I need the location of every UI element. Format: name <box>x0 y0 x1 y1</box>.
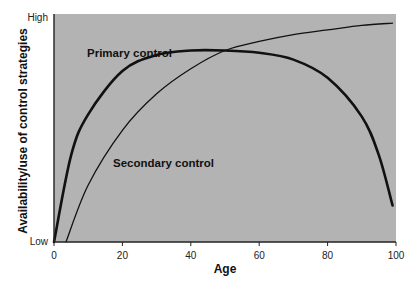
annotation-secondary-control: Secondary control <box>113 157 214 169</box>
x-tick-label: 0 <box>51 250 57 261</box>
x-tick-label: 40 <box>185 250 197 261</box>
y-axis-title: Availability/use of control strategies <box>16 28 30 234</box>
x-axis-title: Age <box>214 262 237 276</box>
y-tick-low: Low <box>30 236 49 247</box>
x-ticks: 020406080100 <box>51 242 405 261</box>
annotation-primary-control: Primary control <box>87 47 172 59</box>
x-tick-label: 60 <box>254 250 266 261</box>
y-tick-high: High <box>27 12 48 23</box>
x-tick-label: 100 <box>388 250 405 261</box>
chart: 020406080100 High Low Age Availability/u… <box>0 0 420 291</box>
x-tick-label: 80 <box>322 250 334 261</box>
x-tick-label: 20 <box>117 250 129 261</box>
